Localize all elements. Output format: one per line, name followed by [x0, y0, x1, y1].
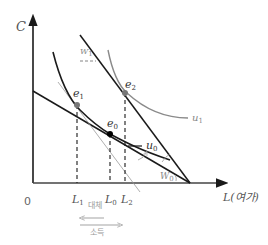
substitution-effect-label: 대체 — [88, 202, 102, 210]
tick-label-l1: L1 — [72, 194, 84, 207]
indifference-curve-u1 — [108, 50, 188, 118]
label-e0: e0 — [107, 118, 118, 131]
x-axis-label: L(여가) — [223, 192, 259, 203]
label-w1: W1 — [80, 48, 93, 58]
label-e2: e2 — [125, 79, 136, 92]
y-axis-label: C — [16, 20, 26, 33]
point-e1 — [74, 102, 80, 108]
label-u1: u1 — [192, 113, 203, 125]
labor-leisure-diagram — [0, 0, 268, 245]
budget-line-w1 — [80, 35, 190, 183]
label-w0: W0 — [160, 172, 174, 183]
label-e1: e1 — [73, 88, 84, 101]
tick-label-l2: L2 — [121, 194, 133, 207]
angle-arc-w0 — [175, 175, 176, 181]
origin-label: 0 — [24, 196, 31, 207]
income-effect-label: 소득 — [90, 229, 104, 237]
label-u0: u0 — [146, 140, 158, 153]
budget-line-w0 — [33, 91, 190, 183]
point-e0 — [107, 131, 113, 137]
tick-label-l0: L0 — [105, 194, 117, 207]
